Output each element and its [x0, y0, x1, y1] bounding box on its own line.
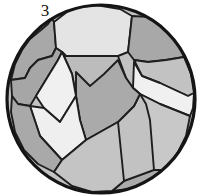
- micrograph-canvas: [0, 0, 198, 195]
- figure-number-label: 3: [32, 0, 58, 22]
- figure-root: 3: [0, 0, 198, 195]
